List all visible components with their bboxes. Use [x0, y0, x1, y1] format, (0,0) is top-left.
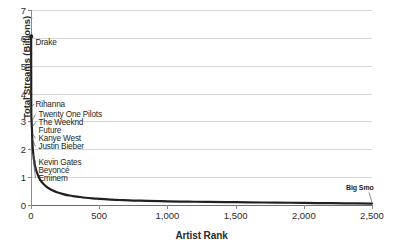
y-axis-tick-labels: 7 6 5 4 3 2 1 0 [8, 0, 26, 249]
y-tick-label: 7 [10, 5, 26, 16]
x-tick-mark [99, 205, 100, 209]
annotation-leader-lines [31, 10, 372, 205]
annotation-rihanna: Rihanna [36, 100, 65, 109]
x-tick-label: 1,500 [224, 210, 248, 221]
y-tick-label: 5 [10, 60, 26, 71]
x-tick-mark [304, 205, 305, 209]
x-tick-label: 500 [91, 210, 107, 221]
x-axis-line [31, 205, 372, 206]
plot-area: Drake Rihanna Twenty One Pilots The Week… [31, 10, 372, 205]
y-tick-label: 0 [10, 200, 26, 211]
x-tick-label: 2,500 [360, 210, 384, 221]
annotation-big-smo: Big Smo [346, 184, 374, 191]
x-tick-mark [236, 205, 237, 209]
x-tick-mark [31, 205, 32, 209]
x-tick-label: 2,000 [292, 210, 316, 221]
x-tick-mark [167, 205, 168, 209]
y-tick-label: 2 [10, 144, 26, 155]
y-tick-label: 4 [10, 88, 26, 99]
annotation-drake: Drake [36, 38, 57, 47]
x-tick-mark [372, 205, 373, 209]
x-tick-label: 0 [28, 210, 33, 221]
chart-container: Total Streams (Billions) 7 6 5 4 3 2 1 0 [0, 0, 399, 249]
annotation-eminem: Eminem [39, 174, 68, 183]
y-tick-label: 3 [10, 116, 26, 127]
x-axis-title: Artist Rank [31, 230, 372, 241]
annotation-justin-bieber: Justin Bieber [39, 142, 84, 151]
y-tick-label: 1 [10, 172, 26, 183]
y-tick-label: 6 [10, 32, 26, 43]
x-tick-label: 1,000 [156, 210, 180, 221]
